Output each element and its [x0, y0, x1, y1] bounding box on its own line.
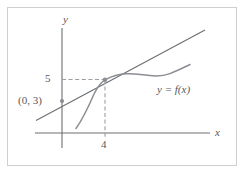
- graph-canvas: [0, 0, 246, 175]
- tangency-point-marker: [103, 78, 108, 83]
- y-intercept-marker: [60, 99, 64, 103]
- x-axis-label: x: [215, 127, 220, 138]
- y-axis-label: y: [63, 14, 68, 25]
- function-curve: [76, 65, 190, 129]
- y-tick-label-5: 5: [45, 73, 51, 84]
- x-tick-label-4: 4: [101, 139, 107, 150]
- function-label: y = f(x): [157, 84, 190, 95]
- y-intercept-label: (0, 3): [18, 95, 42, 106]
- figure-container: y x y = f(x) 5 (0, 3) 4: [0, 0, 246, 175]
